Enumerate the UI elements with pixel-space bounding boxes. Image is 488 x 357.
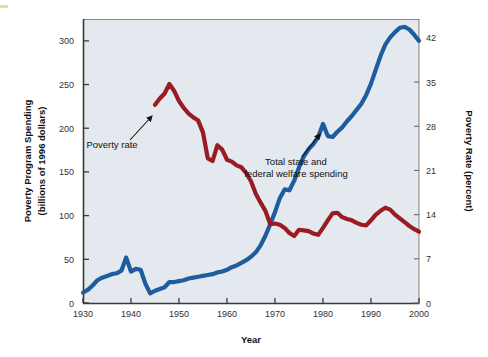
y2-tick-label: 14 [426,210,436,220]
annotation-label-poverty-rate: Poverty rate [86,139,137,150]
x-tick-label: 1940 [121,309,141,319]
y-tick-label: 50 [64,255,74,265]
x-tick-label: 1950 [169,309,189,319]
x-tick-label: 1980 [313,309,333,319]
y-tick-label: 150 [59,167,74,177]
poverty-spending-line-chart: 19301940195019601970198019902000 0501001… [0,0,488,357]
y-tick-label: 250 [59,80,74,90]
x-tick-label: 1960 [217,309,237,319]
y-axis-title-left-line1: Poverty Program Spending [22,100,33,223]
y-axis-title-left-line2: (billions of 1996 dollars) [36,107,47,216]
y-tick-label: 0 [69,299,74,309]
page-corner-mark [0,5,8,8]
x-tick-label: 1930 [73,309,93,319]
y2-tick-label: 21 [426,166,436,176]
x-axis-title: Year [241,334,261,345]
y2-tick-label: 35 [426,78,436,88]
y2-tick-label: 28 [426,122,436,132]
x-tick-label: 2000 [409,309,429,319]
y-tick-label: 100 [59,211,74,221]
x-tick-label: 1970 [265,309,285,319]
y2-tick-label: 0 [426,299,431,309]
chart-figure: 19301940195019601970198019902000 0501001… [0,0,488,357]
y2-tick-label: 7 [426,254,431,264]
y-tick-label: 200 [59,124,74,134]
annotation-label-welfare-spending-line1: Total state and [265,156,327,167]
plot-area-background [83,19,419,303]
annotation-label-welfare-spending-line2: federal welfare spending [244,168,348,179]
y2-tick-label: 42 [426,33,436,43]
y-axis-title-right: Poverty Rate (percent) [464,110,475,211]
x-tick-label: 1990 [361,309,381,319]
y-tick-label: 300 [59,36,74,46]
